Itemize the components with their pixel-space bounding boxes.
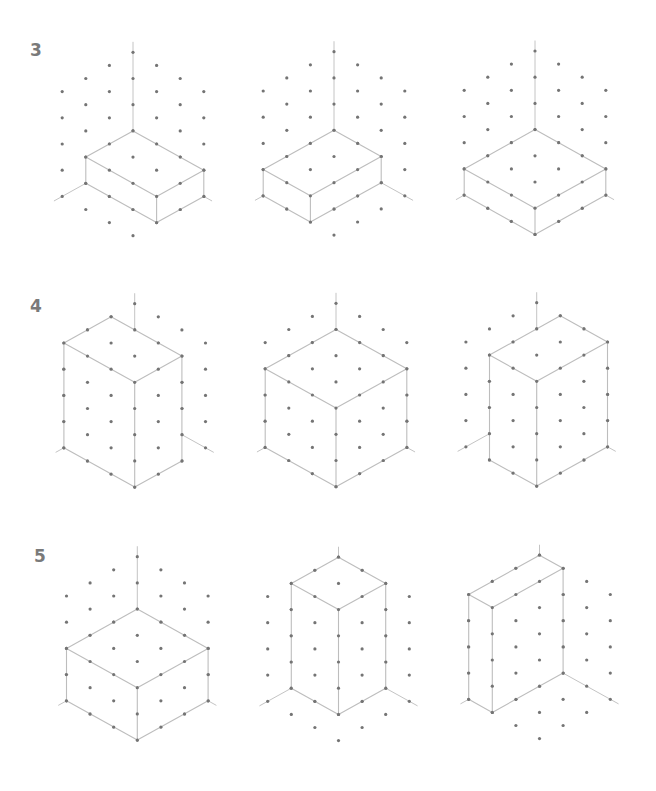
box <box>65 608 210 742</box>
grid-dot <box>382 328 385 331</box>
grid-dot <box>311 393 314 396</box>
grid-dot <box>204 394 207 397</box>
grid-dot <box>488 432 491 435</box>
grid-dot <box>332 234 335 237</box>
grid-dot <box>180 407 183 410</box>
grid-dot <box>464 419 467 422</box>
grid-dot <box>488 354 491 357</box>
grid-dot <box>112 699 115 702</box>
fig-3b <box>255 41 413 236</box>
grid-dot <box>157 420 160 423</box>
grid-dot <box>110 315 113 318</box>
grid-dot <box>204 446 207 449</box>
grid-dot <box>183 634 186 637</box>
grid-dot <box>309 116 312 119</box>
grid-dot <box>311 446 314 449</box>
grid-dot <box>264 393 267 396</box>
grid-dot <box>356 116 359 119</box>
grid-dot <box>287 354 290 357</box>
grid-dot <box>491 685 494 688</box>
box <box>264 328 409 488</box>
grid-dot <box>159 594 162 597</box>
fig-5b <box>259 547 417 742</box>
grid-dot <box>332 129 335 132</box>
grid-dot <box>467 698 470 701</box>
grid-dot <box>491 711 494 714</box>
grid-dot <box>84 208 87 211</box>
grid-dot <box>535 380 538 383</box>
grid-dot <box>264 420 267 423</box>
grid-dot <box>157 315 160 318</box>
grid-dot <box>179 103 182 106</box>
grid-dot <box>266 674 269 677</box>
grid-dot <box>604 89 607 92</box>
grid-dot <box>183 608 186 611</box>
grid-dot <box>313 595 316 598</box>
grid-dot <box>361 569 364 572</box>
grid-dot <box>514 724 517 727</box>
grid-dot <box>511 367 514 370</box>
grid-dot <box>309 194 312 197</box>
grid-dot <box>463 115 466 118</box>
grid-dot <box>131 129 134 132</box>
grid-dot <box>155 116 158 119</box>
grid-dot <box>581 102 584 105</box>
grid-dot <box>309 168 312 171</box>
grid-dot <box>491 632 494 635</box>
grid-dot <box>313 674 316 677</box>
grid-dot <box>86 381 89 384</box>
grid-dot <box>510 167 513 170</box>
grid-dot <box>337 608 340 611</box>
grid-dot <box>486 102 489 105</box>
grid-dot <box>207 673 210 676</box>
grid-dot <box>361 621 364 624</box>
grid-dot <box>136 581 139 584</box>
grid-dot <box>382 407 385 410</box>
grid-dot <box>511 314 514 317</box>
grid-dot <box>311 420 314 423</box>
grid-dot <box>334 407 337 410</box>
grid-dot <box>514 672 517 675</box>
grid-dot <box>585 606 588 609</box>
grid-dot <box>585 632 588 635</box>
grid-dot <box>535 406 538 409</box>
fig-4b <box>257 293 415 488</box>
grid-dot <box>491 606 494 609</box>
grid-dot <box>202 116 205 119</box>
grid-dot <box>533 102 536 105</box>
grid-dot <box>311 315 314 318</box>
grid-dot <box>464 367 467 370</box>
grid-dot <box>334 485 337 488</box>
grid-dot <box>356 168 359 171</box>
grid-dot <box>65 594 68 597</box>
grid-dot <box>581 128 584 131</box>
grid-dot <box>486 207 489 210</box>
grid-dot <box>311 367 314 370</box>
grid-dot <box>337 634 340 637</box>
grid-dot <box>133 433 136 436</box>
grid-dot <box>384 582 387 585</box>
grid-dot <box>467 593 470 596</box>
grid-dot <box>380 129 383 132</box>
grid-dot <box>403 116 406 119</box>
grid-dot <box>511 419 514 422</box>
grid-dot <box>159 673 162 676</box>
grid-dot <box>136 660 139 663</box>
grid-dot <box>86 433 89 436</box>
grid-dot <box>287 459 290 462</box>
grid-dot <box>133 302 136 305</box>
grid-dot <box>510 115 513 118</box>
grid-dot <box>131 103 134 106</box>
grid-dot <box>358 472 361 475</box>
grid-dot <box>562 724 565 727</box>
grid-dot <box>202 90 205 93</box>
grid-dot <box>159 621 162 624</box>
grid-dot <box>179 156 182 159</box>
grid-dot <box>514 593 517 596</box>
grid-dot <box>535 432 538 435</box>
fig-4a <box>56 293 214 488</box>
grid-dot <box>179 129 182 132</box>
grid-dot <box>290 582 293 585</box>
grid-dot <box>136 712 139 715</box>
grid-dot <box>62 420 65 423</box>
